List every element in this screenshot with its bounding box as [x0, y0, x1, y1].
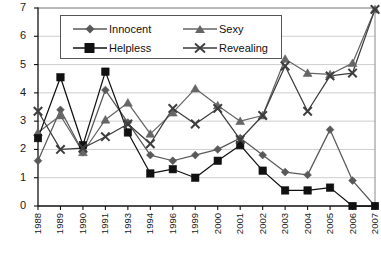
legend-item-sexy: Sexy	[183, 22, 243, 36]
legend-marker-diamond	[73, 23, 107, 38]
legend-label-sexy: Sexy	[219, 23, 243, 35]
x-axis-tick-label-2001: 2001	[234, 213, 245, 234]
line-chart: Innocent Sexy Helpless Revealing 7654321…	[0, 0, 381, 259]
x-axis-tick-label-1996: 1996	[167, 213, 178, 234]
y-axis-tick-label-2: 2	[8, 143, 26, 154]
datapoint-helpless-2006	[349, 202, 356, 209]
legend-item-innocent: Innocent	[73, 22, 151, 36]
datapoint-helpless-2002	[259, 167, 266, 174]
legend-label-innocent: Innocent	[109, 23, 151, 35]
legend-label-helpless: Helpless	[109, 42, 151, 54]
x-axis-tick-label-2006: 2006	[347, 213, 358, 234]
x-axis-tick-label-1990: 1990	[77, 213, 88, 234]
x-axis-tick-label-2003: 2003	[279, 213, 290, 234]
x-axis-tick-label-2004: 2004	[302, 213, 313, 234]
y-axis-tick-label-3: 3	[8, 115, 26, 126]
x-axis-tick-label-2000: 2000	[212, 213, 223, 234]
legend-marker-triangle	[183, 23, 217, 38]
x-axis-tick-label-1991: 1991	[99, 213, 110, 234]
x-axis-tick-label-1994: 1994	[144, 213, 155, 234]
datapoint-helpless-1989	[57, 74, 64, 81]
x-axis-tick-label-2002: 2002	[257, 213, 268, 234]
datapoint-helpless-2007	[371, 202, 378, 209]
x-axis-tick-label-2005: 2005	[324, 213, 335, 234]
datapoint-helpless-1996	[169, 166, 176, 173]
y-axis-tick-label-5: 5	[8, 59, 26, 70]
datapoint-helpless-1999	[192, 174, 199, 181]
datapoint-helpless-2003	[281, 187, 288, 194]
y-axis-tick-label-4: 4	[8, 87, 26, 98]
x-axis-tick-label-1993: 1993	[122, 213, 133, 234]
datapoint-helpless-1994	[147, 170, 154, 177]
y-axis-tick-label-1: 1	[8, 172, 26, 183]
y-axis-tick-label-0: 0	[8, 200, 26, 211]
legend-label-revealing: Revealing	[219, 42, 268, 54]
datapoint-helpless-2004	[304, 187, 311, 194]
y-axis-tick-label-7: 7	[8, 2, 26, 13]
chart-legend: Innocent Sexy Helpless Revealing	[60, 15, 282, 59]
x-axis-tick-label-2007: 2007	[369, 213, 380, 234]
legend-marker-square	[73, 42, 107, 57]
x-axis-tick-label-1988: 1988	[32, 213, 43, 234]
x-axis-tick-label-1999: 1999	[189, 213, 200, 234]
datapoint-helpless-1993	[124, 129, 131, 136]
datapoint-helpless-1991	[102, 68, 109, 75]
datapoint-helpless-2005	[326, 184, 333, 191]
legend-item-helpless: Helpless	[73, 41, 151, 55]
y-axis-tick-label-6: 6	[8, 30, 26, 41]
datapoint-helpless-1988	[34, 134, 41, 141]
legend-item-revealing: Revealing	[183, 41, 268, 55]
datapoint-helpless-2000	[214, 157, 221, 164]
x-axis-tick-label-1989: 1989	[54, 213, 65, 234]
legend-marker-x	[183, 42, 217, 57]
